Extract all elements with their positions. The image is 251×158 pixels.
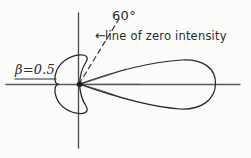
zero-intensity-line-label: line of zero intensity <box>105 31 227 43</box>
angle-label: 60° <box>112 9 136 22</box>
cusp-tangent-upper <box>80 69 127 84</box>
radiation-pattern-figure: 60° ← line of zero intensity β=0.5 <box>0 0 251 158</box>
back-lobe-lower-curve <box>55 84 87 113</box>
origin-cusp-node <box>77 82 83 87</box>
pattern-diagram <box>0 0 251 158</box>
beta-parameter-label: β=0.5 <box>15 63 55 76</box>
back-lobe-upper-curve <box>55 55 87 85</box>
